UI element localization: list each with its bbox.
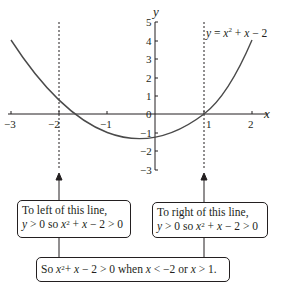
y-tick-label: 2	[146, 72, 152, 84]
left-box-line2: y > 0 so x2 + x − 2 > 0	[22, 217, 126, 231]
x-tick-label: 1	[206, 118, 212, 130]
x-tick-label: 2	[248, 118, 254, 130]
curve-label: y = x2 + x − 2	[206, 27, 267, 39]
y-tick-label: 3	[146, 53, 152, 65]
left-box-line1: To left of this line,	[22, 203, 126, 217]
y-tick-label: −1	[140, 127, 152, 139]
x-tick-label: −3	[4, 118, 16, 130]
conclusion-box: So x2+ x − 2 > 0 when x < −2 or x > 1.	[36, 257, 230, 282]
chart-figure: −3 −2 −1 1 2 5 4 3 2 1 0 −1 −2 −3 x y y …	[0, 0, 282, 285]
right-box-line2: y > 0 so x2 + x − 2 > 0	[157, 219, 263, 233]
x-tick-label: −1	[100, 118, 112, 130]
y-tick-label: −2	[140, 145, 152, 157]
right-box-line1: To right of this line,	[157, 205, 263, 219]
y-tick-label: 1	[146, 90, 152, 102]
y-tick-label: 4	[146, 35, 152, 47]
chart-svg: −3 −2 −1 1 2 5 4 3 2 1 0 −1 −2 −3 x y	[0, 0, 282, 285]
x-tick-label: −2	[48, 118, 60, 130]
y-axis-label: y	[151, 4, 159, 19]
y-tick-label: 5	[146, 16, 152, 28]
x-axis-label: x	[263, 106, 270, 121]
y-tick-label: −3	[140, 164, 152, 176]
y-tick-label: 0	[146, 108, 152, 120]
right-annotation-box: To right of this line, y > 0 so x2 + x −…	[152, 202, 268, 238]
conclusion-text: So x2+ x − 2 > 0 when x < −2 or x > 1.	[41, 263, 217, 275]
left-annotation-box: To left of this line, y > 0 so x2 + x − …	[17, 200, 131, 238]
